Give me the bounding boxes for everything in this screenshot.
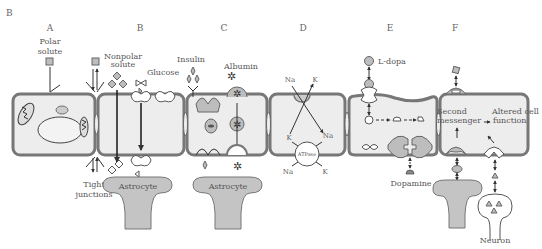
tight-junction [184,112,188,136]
glut1-transporter-icon [131,155,151,165]
panel-letter-c: C [221,23,228,33]
block-line [97,82,104,92]
nonpolar-solute-icon [108,166,116,174]
albumin-icon: ✲ [233,160,242,173]
label-altered: Altered cell [491,107,539,116]
label-function: function [493,116,527,125]
deflect-arrow-icon [50,85,60,92]
neuron-terminal-icon [478,194,512,240]
astrocyte-icon [433,180,482,228]
signal-molecule-icon [452,166,462,173]
tight-junction [95,114,99,134]
tight-junction [345,112,349,136]
block-line [86,82,95,92]
dopamine-icon [406,170,414,174]
label-astrocyte: Astrocyte [208,182,248,191]
albumin-icon: ✲ [227,70,236,83]
intermediate-icon [393,117,401,121]
ldopa-molecule-icon [365,57,374,66]
label-neuron: Neuron [480,236,511,245]
neurotransmitter-icon [492,173,498,178]
block-line [86,157,95,167]
panel-letter-b: B [137,23,144,33]
ligand-icon [452,66,459,73]
label-glucose: Glucose [147,68,180,77]
nonpolar-solute-icon [119,80,127,88]
vesicle [56,106,68,114]
panel-letter-d: D [299,23,306,33]
spoke [292,162,298,166]
nonpolar-solute-icon [113,72,121,80]
label-second: Second [437,107,467,116]
label-na-bottom: Na [283,168,293,176]
nonpolar-solute-icon [108,80,116,88]
panel-letter-f: F [452,23,458,33]
label-solute: solute [111,60,136,69]
polar-solute-icon [46,58,53,65]
vesicle-core [208,125,214,128]
label-k-top: K [312,76,318,84]
label-polar: Polar [39,37,60,46]
insulin-icon [187,67,199,83]
label-na-mid: Na [323,132,333,140]
label-astrocyte: Astrocyte [118,182,158,191]
label-insulin: Insulin [177,55,205,64]
label-atpase: ATPase [297,151,316,157]
figure-label: B [6,8,13,18]
label-solute: solute [38,47,63,56]
bbb-transport-diagram: B A B C D E F Polar solute [0,0,542,249]
nucleus [38,117,82,143]
panel-letter-a: A [46,23,54,33]
label-messenger: messenger [437,116,481,125]
label-tight: Tight [83,180,105,189]
polar-solute-icon [92,58,99,65]
panel-letter-e: E [387,23,394,33]
label-ldopa: L-dopa [378,57,406,66]
label-dopamine: Dopamine [390,179,431,188]
glucose-icon [135,171,139,177]
label-k-bottom: K [322,168,328,176]
glucose-icon [136,80,146,86]
tight-junction [267,112,271,136]
albumin-icon: ✲ [233,88,241,99]
block-line [97,157,104,167]
ldopa-intracellular-icon [365,116,373,124]
spoke [316,162,322,166]
label-k-mid: K [286,134,292,142]
label-na-top: Na [285,76,295,84]
insulin-icon [203,161,207,169]
